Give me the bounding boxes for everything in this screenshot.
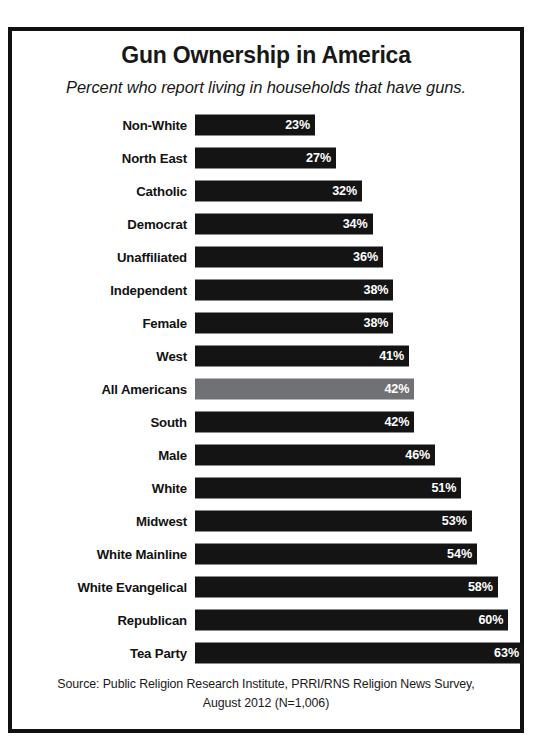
bar-track: 54% (195, 543, 516, 564)
bar-track: 60% (195, 609, 516, 630)
bar: 63% (195, 642, 524, 663)
bar: 53% (195, 510, 472, 531)
bar-track: 32% (195, 180, 516, 201)
bar: 38% (195, 312, 393, 333)
bar-value-label: 23% (285, 118, 310, 132)
bar-category-label: Catholic (12, 183, 187, 198)
bar-row: White51% (12, 471, 520, 504)
bar-value-label: 38% (364, 316, 389, 330)
bar-category-label: North East (12, 150, 187, 165)
bar-track: 34% (195, 213, 516, 234)
bar-row: South42% (12, 405, 520, 438)
bar-value-label: 60% (478, 613, 503, 627)
chart-frame: Gun Ownership in America Percent who rep… (8, 27, 524, 733)
bar-row: Unaffiliated36% (12, 240, 520, 273)
bar-category-label: Tea Party (12, 645, 187, 660)
bar-value-label: 58% (468, 580, 493, 594)
bar-track: 27% (195, 147, 516, 168)
bar-track: 42% (195, 378, 516, 399)
bar-row: Catholic32% (12, 174, 520, 207)
bar-row: White Mainline54% (12, 537, 520, 570)
bar: 42% (195, 411, 414, 432)
bar-category-label: Male (12, 447, 187, 462)
bar-row: Male46% (12, 438, 520, 471)
source-note: Source: Public Religion Research Institu… (12, 675, 520, 712)
bar-category-label: White Evangelical (12, 579, 187, 594)
bar: 27% (195, 147, 336, 168)
bar: 54% (195, 543, 477, 564)
bar-category-label: Female (12, 315, 187, 330)
bar-category-label: Independent (12, 282, 187, 297)
bar-category-label: White Mainline (12, 546, 187, 561)
bar: 58% (195, 576, 498, 597)
bar-highlighted: 42% (195, 378, 414, 399)
bar: 36% (195, 246, 383, 267)
bar-track: 42% (195, 411, 516, 432)
chart-subtitle: Percent who report living in households … (12, 78, 520, 97)
bar: 51% (195, 477, 461, 498)
chart-title: Gun Ownership in America (12, 42, 520, 69)
bar-value-label: 32% (332, 184, 357, 198)
bar-row: White Evangelical58% (12, 570, 520, 603)
bar-row: North East27% (12, 141, 520, 174)
bar-value-label: 54% (447, 547, 472, 561)
bar-category-label: Midwest (12, 513, 187, 528)
bar-track: 36% (195, 246, 516, 267)
source-line-2: August 2012 (N=1,006) (38, 694, 494, 713)
bar-category-label: South (12, 414, 187, 429)
bar: 46% (195, 444, 435, 465)
bar-row: Female38% (12, 306, 520, 339)
bar-value-label: 51% (431, 481, 456, 495)
bar-value-label: 36% (353, 250, 378, 264)
bar-value-label: 42% (384, 382, 409, 396)
bar: 32% (195, 180, 362, 201)
bar: 41% (195, 345, 409, 366)
bar: 38% (195, 279, 393, 300)
bar-value-label: 38% (364, 283, 389, 297)
bar-track: 46% (195, 444, 516, 465)
bar-track: 51% (195, 477, 516, 498)
bar-track: 38% (195, 279, 516, 300)
bar-track: 41% (195, 345, 516, 366)
bar-track: 58% (195, 576, 516, 597)
bar-category-label: White (12, 480, 187, 495)
bar-category-label: Democrat (12, 216, 187, 231)
bar-value-label: 34% (343, 217, 368, 231)
bar-category-label: West (12, 348, 187, 363)
bar-category-label: All Americans (12, 381, 187, 396)
bar-row: Democrat34% (12, 207, 520, 240)
bar-category-label: Republican (12, 612, 187, 627)
bar-category-label: Non-White (12, 117, 187, 132)
bar: 23% (195, 114, 315, 135)
bar-chart-plot-area: Non-White23%North East27%Catholic32%Demo… (12, 108, 520, 669)
bar-value-label: 63% (494, 646, 519, 660)
bar-value-label: 27% (306, 151, 331, 165)
bar-row: Non-White23% (12, 108, 520, 141)
bar: 34% (195, 213, 373, 234)
bar-track: 23% (195, 114, 516, 135)
bar-value-label: 41% (379, 349, 404, 363)
source-line-1: Source: Public Religion Research Institu… (38, 675, 494, 694)
bar-row: West41% (12, 339, 520, 372)
bar-value-label: 46% (405, 448, 430, 462)
bar-value-label: 42% (384, 415, 409, 429)
bar-row: Tea Party63% (12, 636, 520, 669)
bar-value-label: 53% (442, 514, 467, 528)
bar: 60% (195, 609, 508, 630)
bar-track: 63% (195, 642, 516, 663)
bar-track: 38% (195, 312, 516, 333)
bar-row: Republican60% (12, 603, 520, 636)
bar-category-label: Unaffiliated (12, 249, 187, 264)
bar-row: Midwest53% (12, 504, 520, 537)
bar-row: Independent38% (12, 273, 520, 306)
bar-row: All Americans42% (12, 372, 520, 405)
bar-track: 53% (195, 510, 516, 531)
